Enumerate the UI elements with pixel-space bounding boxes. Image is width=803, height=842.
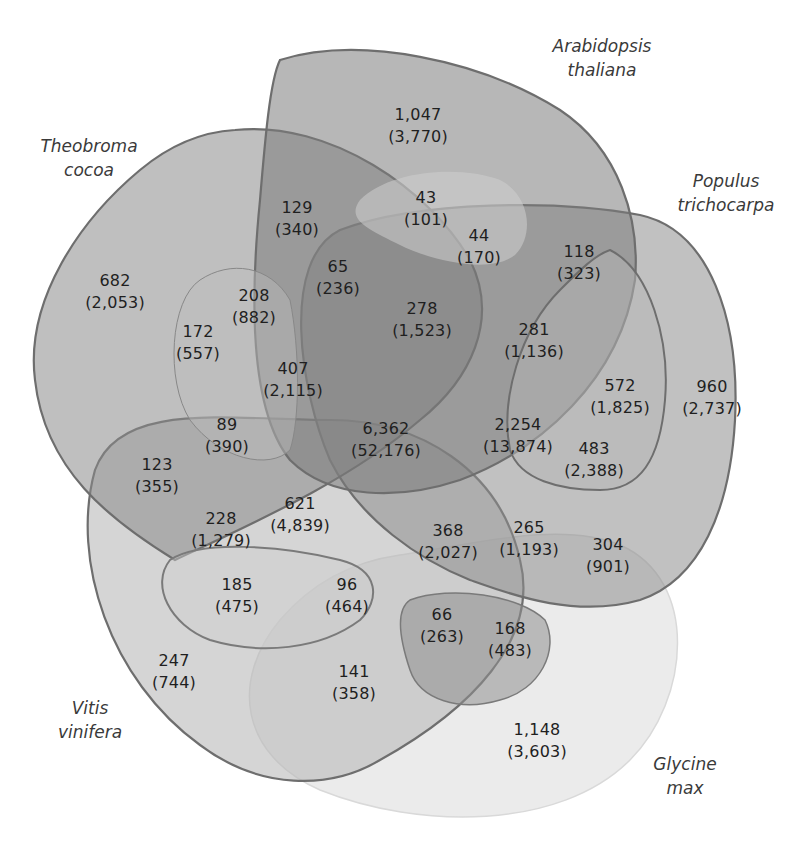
species-epithet: vinifera [58, 720, 122, 744]
region-label: 483(2,388) [564, 438, 624, 482]
region-total: (1,523) [392, 320, 452, 342]
region-count: 228 [191, 508, 251, 530]
region-label: 368(2,027) [418, 520, 478, 564]
region-count: 172 [176, 321, 220, 343]
species-label-theobroma: Theobroma cocoa [40, 134, 137, 182]
region-label: 304(901) [586, 534, 630, 578]
region-label: 118(323) [557, 241, 601, 285]
region-total: (1,825) [590, 397, 650, 419]
region-label: 278(1,523) [392, 298, 452, 342]
region-total: (3,770) [388, 126, 448, 148]
species-genus: Vitis [58, 696, 122, 720]
region-total: (263) [420, 626, 464, 648]
region-count: 96 [325, 574, 369, 596]
species-genus: Theobroma [40, 134, 137, 158]
species-genus: Populus [678, 169, 775, 193]
region-total: (2,388) [564, 460, 624, 482]
region-total: (101) [404, 209, 448, 231]
region-count: 129 [275, 197, 319, 219]
region-total: (4,839) [270, 515, 330, 537]
region-count: 65 [316, 256, 360, 278]
region-total: (52,176) [351, 440, 421, 462]
region-label: 247(744) [152, 650, 196, 694]
region-total: (475) [215, 596, 259, 618]
region-count: 118 [557, 241, 601, 263]
region-total: (2,737) [682, 398, 742, 420]
region-total: (1,279) [191, 530, 251, 552]
region-label: 682(2,053) [85, 270, 145, 314]
region-total: (2,115) [263, 380, 323, 402]
region-label: 66(263) [420, 604, 464, 648]
species-genus: Arabidopsis [553, 34, 652, 58]
region-total: (882) [232, 307, 276, 329]
region-label: 6,362(52,176) [351, 418, 421, 462]
region-total: (2,027) [418, 542, 478, 564]
species-label-glycine: Glycine max [653, 752, 716, 800]
region-label: 43(101) [404, 187, 448, 231]
region-label: 621(4,839) [270, 493, 330, 537]
species-epithet: trichocarpa [678, 193, 775, 217]
region-count: 621 [270, 493, 330, 515]
region-count: 6,362 [351, 418, 421, 440]
region-label: 172(557) [176, 321, 220, 365]
region-total: (1,136) [504, 341, 564, 363]
species-label-populus: Populus trichocarpa [678, 169, 775, 217]
region-label: 123(355) [135, 454, 179, 498]
region-label: 208(882) [232, 285, 276, 329]
species-epithet: cocoa [40, 158, 137, 182]
region-label: 96(464) [325, 574, 369, 618]
species-label-vitis: Vitis vinifera [58, 696, 122, 744]
region-total: (170) [457, 247, 501, 269]
region-count: 368 [418, 520, 478, 542]
region-count: 89 [205, 414, 249, 436]
region-total: (744) [152, 672, 196, 694]
region-label: 265(1,193) [499, 517, 559, 561]
species-genus: Glycine [653, 752, 716, 776]
region-label: 407(2,115) [263, 358, 323, 402]
region-total: (483) [488, 640, 532, 662]
region-count: 2,254 [483, 414, 553, 436]
region-label: 2,254(13,874) [483, 414, 553, 458]
region-label: 141(358) [332, 661, 376, 705]
region-total: (2,053) [85, 292, 145, 314]
species-epithet: thaliana [553, 58, 652, 82]
region-label: 572(1,825) [590, 375, 650, 419]
region-count: 168 [488, 618, 532, 640]
region-label: 1,047(3,770) [388, 104, 448, 148]
region-label: 65(236) [316, 256, 360, 300]
region-count: 278 [392, 298, 452, 320]
region-total: (236) [316, 278, 360, 300]
region-label: 89(390) [205, 414, 249, 458]
region-total: (3,603) [507, 741, 567, 763]
region-label: 228(1,279) [191, 508, 251, 552]
region-count: 141 [332, 661, 376, 683]
region-total: (355) [135, 476, 179, 498]
region-total: (13,874) [483, 436, 553, 458]
region-count: 43 [404, 187, 448, 209]
region-count: 407 [263, 358, 323, 380]
region-total: (1,193) [499, 539, 559, 561]
region-count: 281 [504, 319, 564, 341]
region-count: 304 [586, 534, 630, 556]
region-total: (557) [176, 343, 220, 365]
region-total: (358) [332, 683, 376, 705]
region-count: 682 [85, 270, 145, 292]
region-count: 123 [135, 454, 179, 476]
region-label: 168(483) [488, 618, 532, 662]
region-count: 44 [457, 225, 501, 247]
region-count: 572 [590, 375, 650, 397]
region-count: 66 [420, 604, 464, 626]
region-label: 281(1,136) [504, 319, 564, 363]
region-label: 129(340) [275, 197, 319, 241]
species-epithet: max [653, 776, 716, 800]
region-total: (464) [325, 596, 369, 618]
region-total: (901) [586, 556, 630, 578]
region-count: 960 [682, 376, 742, 398]
region-label: 44(170) [457, 225, 501, 269]
region-total: (323) [557, 263, 601, 285]
region-label: 185(475) [215, 574, 259, 618]
region-count: 483 [564, 438, 624, 460]
region-count: 265 [499, 517, 559, 539]
region-total: (340) [275, 219, 319, 241]
region-label: 960(2,737) [682, 376, 742, 420]
